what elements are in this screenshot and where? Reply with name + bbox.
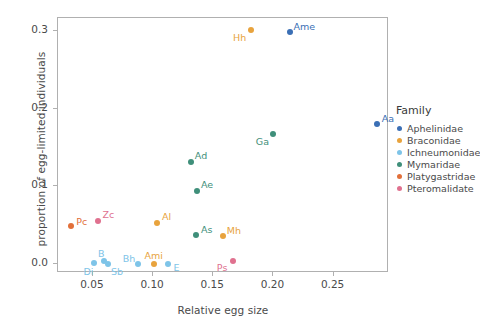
legend-item[interactable]: Pteromalidate	[396, 183, 480, 195]
data-point-label: Mh	[227, 224, 241, 235]
data-point-label: Zc	[102, 208, 114, 219]
data-point-label: Ame	[293, 20, 315, 31]
data-point-label: Ga	[256, 135, 269, 146]
data-point-label: Bh	[123, 252, 136, 263]
data-point-label: Pc	[76, 216, 87, 227]
legend-color-swatch	[397, 186, 402, 191]
data-point-label: Aa	[382, 113, 394, 124]
x-tick-label: 0.10	[132, 278, 172, 290]
data-point	[230, 258, 236, 264]
legend-item-label: Pteromalidate	[407, 183, 474, 194]
x-tick-mark	[333, 272, 334, 276]
legend-title: Family	[396, 104, 480, 117]
plot-panel: AmeAaHhAlMhAmiDiBSbBhEGaAdAeAsPcZcPs	[57, 17, 388, 272]
data-point-label: Al	[162, 211, 171, 222]
data-point	[220, 233, 226, 239]
x-tick-mark	[152, 272, 153, 276]
legend-item-label: Braconidae	[407, 135, 461, 146]
data-point-label: B	[98, 247, 105, 258]
data-point	[188, 159, 194, 165]
data-point	[154, 220, 160, 226]
data-point-label: Ae	[201, 179, 213, 190]
data-point-label: Ami	[144, 249, 162, 260]
legend-item-label: Ichneumonidae	[407, 147, 480, 158]
legend-item[interactable]: Ichneumonidae	[396, 147, 480, 159]
y-tick-label: 0.1	[14, 178, 48, 190]
data-point-label: Sb	[111, 266, 123, 277]
legend-item[interactable]: Aphelinidae	[396, 123, 480, 135]
legend-item[interactable]: Mymaridae	[396, 159, 480, 171]
legend-color-swatch	[397, 150, 402, 155]
x-tick-label: 0.25	[313, 278, 353, 290]
data-point-label: Ad	[195, 149, 207, 160]
data-point	[270, 131, 276, 137]
legend-item[interactable]: Braconidae	[396, 135, 480, 147]
data-point	[194, 188, 200, 194]
legend-color-swatch	[397, 162, 402, 167]
legend-color-swatch	[397, 138, 402, 143]
data-point	[165, 261, 171, 267]
plot-area: AmeAaHhAlMhAmiDiBSbBhEGaAdAeAsPcZcPs	[58, 18, 387, 271]
x-tick-label: 0.20	[252, 278, 292, 290]
x-tick-label: 0.05	[72, 278, 112, 290]
legend: Family AphelinidaeBraconidaeIchneumonida…	[396, 104, 480, 195]
legend-item[interactable]: Platygastridae	[396, 171, 480, 183]
data-point	[374, 121, 380, 127]
data-point-label: As	[201, 224, 212, 235]
y-tick-label: 0.0	[14, 256, 48, 268]
data-point	[135, 261, 141, 267]
x-tick-mark	[272, 272, 273, 276]
legend-items: AphelinidaeBraconidaeIchneumonidaeMymari…	[396, 123, 480, 195]
y-tick-label: 0.2	[14, 101, 48, 113]
x-axis-title: Relative egg size	[57, 304, 389, 316]
y-axis-title: proportion of egg-limited individuals	[35, 24, 47, 274]
data-point	[248, 27, 254, 33]
legend-item-label: Mymaridae	[407, 159, 460, 170]
x-tick-mark	[212, 272, 213, 276]
data-point	[193, 232, 199, 238]
legend-item-label: Platygastridae	[407, 171, 475, 182]
y-tick-label: 0.3	[14, 23, 48, 35]
legend-item-label: Aphelinidae	[407, 123, 463, 134]
data-point-label: Di	[84, 266, 94, 277]
scatter-plot-figure: proportion of egg-limited individuals Re…	[0, 0, 480, 326]
data-point-label: Hh	[233, 31, 246, 42]
data-point	[68, 223, 74, 229]
data-point	[287, 29, 293, 35]
data-point	[95, 218, 101, 224]
data-point	[151, 261, 157, 267]
x-tick-label: 0.15	[192, 278, 232, 290]
legend-color-swatch	[397, 174, 402, 179]
data-point-label: E	[174, 261, 180, 272]
data-point-label: Ps	[217, 261, 228, 272]
legend-color-swatch	[397, 126, 402, 131]
